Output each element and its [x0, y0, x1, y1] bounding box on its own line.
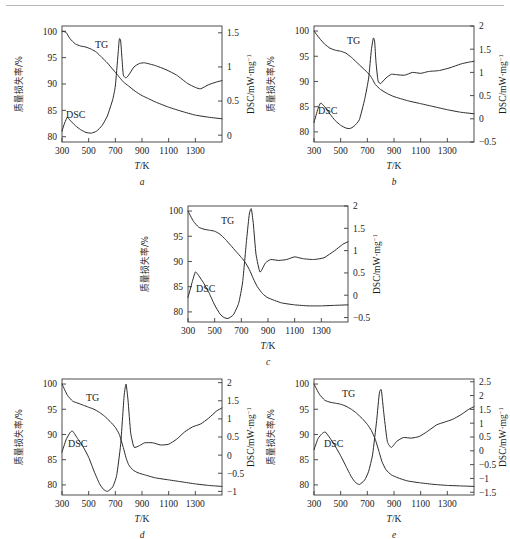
y-right-tick-label: −1 [227, 487, 237, 497]
y-right-tick-label: 0 [479, 446, 484, 456]
curve-label-tg: TG [342, 388, 355, 399]
x-tick-label: 1100 [159, 499, 178, 509]
y-right-tick-label: −0.5 [479, 137, 496, 147]
y-left-axis-title: 质量损失率/% [265, 409, 276, 465]
x-tick-label: 700 [108, 499, 123, 509]
y-right-tick-label: 1.5 [227, 28, 239, 38]
x-tick-label: 1300 [438, 499, 457, 509]
y-right-tick-label: −1 [479, 474, 489, 484]
curve-label-dsc: DSC [196, 283, 216, 294]
page-top-rule [6, 5, 504, 6]
panel-letter-b: b [392, 177, 397, 187]
y-right-tick-label: 2 [353, 201, 358, 211]
x-axis-title: T/K [261, 341, 276, 351]
x-tick-label: 500 [334, 146, 349, 156]
y-right-tick-label: 0.5 [227, 432, 239, 442]
y-left-tick-label: 90 [48, 430, 58, 440]
curve-label-tg: TG [95, 39, 108, 50]
x-axis-title: T/K [387, 161, 402, 171]
x-tick-label: 500 [208, 326, 223, 336]
x-tick-label: 900 [135, 146, 150, 156]
y-left-tick-label: 100 [43, 379, 58, 389]
plot-d: 3005007009001100130080859095100−1−0.500.… [0, 365, 258, 539]
y-left-tick-label: 95 [300, 405, 310, 415]
curve-tg-b [314, 31, 474, 114]
x-tick-label: 500 [82, 499, 97, 509]
y-right-tick-label: 0 [227, 451, 232, 461]
y-right-tick-label: 0.5 [479, 432, 491, 442]
y-left-tick-label: 85 [48, 106, 58, 116]
x-tick-label: 700 [234, 326, 249, 336]
curve-label-dsc: DSC [318, 105, 338, 116]
y-left-axis-title: 质量损失率/% [13, 409, 24, 465]
x-tick-label: 900 [387, 146, 402, 156]
x-tick-label: 1300 [438, 146, 457, 156]
y-right-tick-label: 1 [479, 419, 484, 429]
y-right-tick-label: 1.5 [479, 405, 491, 415]
curve-dsc-b [314, 38, 474, 129]
y-right-tick-label: −1.5 [479, 488, 496, 498]
y-left-tick-label: 95 [48, 405, 58, 415]
x-tick-label: 1100 [285, 326, 304, 336]
x-tick-label: 900 [261, 326, 276, 336]
y-left-tick-label: 85 [174, 282, 184, 292]
y-right-axis-title: DSC/mW·mg−1 [497, 407, 508, 467]
y-right-tick-label: 2 [479, 391, 484, 401]
y-left-tick-label: 85 [300, 102, 310, 112]
x-tick-label: 300 [55, 146, 70, 156]
panel-e: 3005007009001100130080859095100−1.5−1−0.… [252, 365, 510, 539]
y-right-tick-label: 1 [479, 68, 484, 78]
plot-c: 3005007009001100130080859095100−0.500.51… [126, 192, 384, 370]
curve-dsc-c [188, 209, 348, 319]
x-axis-title: T/K [387, 514, 402, 524]
y-left-tick-label: 100 [43, 27, 58, 37]
y-left-tick-label: 95 [48, 53, 58, 63]
y-right-tick-label: 1.5 [353, 224, 365, 234]
x-tick-label: 700 [108, 146, 123, 156]
x-tick-label: 300 [307, 146, 322, 156]
curve-tg-e [314, 384, 474, 486]
x-axis-title: T/K [135, 514, 150, 524]
x-tick-label: 500 [82, 146, 97, 156]
y-left-tick-label: 90 [48, 79, 58, 89]
y-left-axis-title: 质量损失率/% [139, 236, 150, 292]
y-right-axis-title: DSC/mW·mg−1 [371, 234, 382, 294]
y-left-tick-label: 80 [300, 480, 310, 490]
y-left-tick-label: 80 [174, 307, 184, 317]
y-left-tick-label: 90 [300, 430, 310, 440]
x-tick-label: 500 [334, 499, 349, 509]
y-right-tick-label: −0.5 [227, 469, 244, 479]
x-tick-label: 1100 [411, 499, 430, 509]
y-right-tick-label: −0.5 [353, 313, 370, 323]
curve-label-dsc: DSC [66, 109, 86, 120]
x-tick-label: 1300 [312, 326, 331, 336]
y-left-tick-label: 100 [169, 206, 184, 216]
curve-label-tg: TG [347, 35, 360, 46]
x-tick-label: 900 [135, 499, 150, 509]
x-tick-label: 700 [360, 499, 375, 509]
panel-c: 3005007009001100130080859095100−0.500.51… [126, 192, 384, 370]
panel-a: 300500700900110013008085909510000.511.5T… [0, 12, 258, 190]
y-right-tick-label: 0 [227, 131, 232, 141]
curve-dsc-a [62, 39, 222, 134]
y-left-tick-label: 90 [300, 77, 310, 87]
x-axis-title: T/K [135, 161, 150, 171]
y-right-tick-label: 2 [479, 21, 484, 31]
y-left-tick-label: 95 [300, 52, 310, 62]
curve-label-dsc: DSC [324, 438, 344, 449]
x-tick-label: 300 [55, 499, 70, 509]
y-right-tick-label: 0.5 [479, 91, 491, 101]
panel-letter-d: d [140, 530, 145, 539]
y-left-tick-label: 85 [300, 455, 310, 465]
y-left-tick-label: 95 [174, 232, 184, 242]
panel-d: 3005007009001100130080859095100−1−0.500.… [0, 365, 258, 539]
y-right-tick-label: 0.5 [353, 268, 365, 278]
y-right-tick-label: −0.5 [479, 460, 496, 470]
y-left-tick-label: 80 [48, 132, 58, 142]
y-left-axis-title: 质量损失率/% [13, 56, 24, 112]
y-left-tick-label: 100 [295, 379, 310, 389]
x-tick-label: 300 [181, 326, 196, 336]
plot-a: 300500700900110013008085909510000.511.5T… [0, 12, 258, 190]
panel-b: 3005007009001100130080859095100−0.500.51… [252, 12, 510, 190]
plot-e: 3005007009001100130080859095100−1.5−1−0.… [252, 365, 510, 539]
